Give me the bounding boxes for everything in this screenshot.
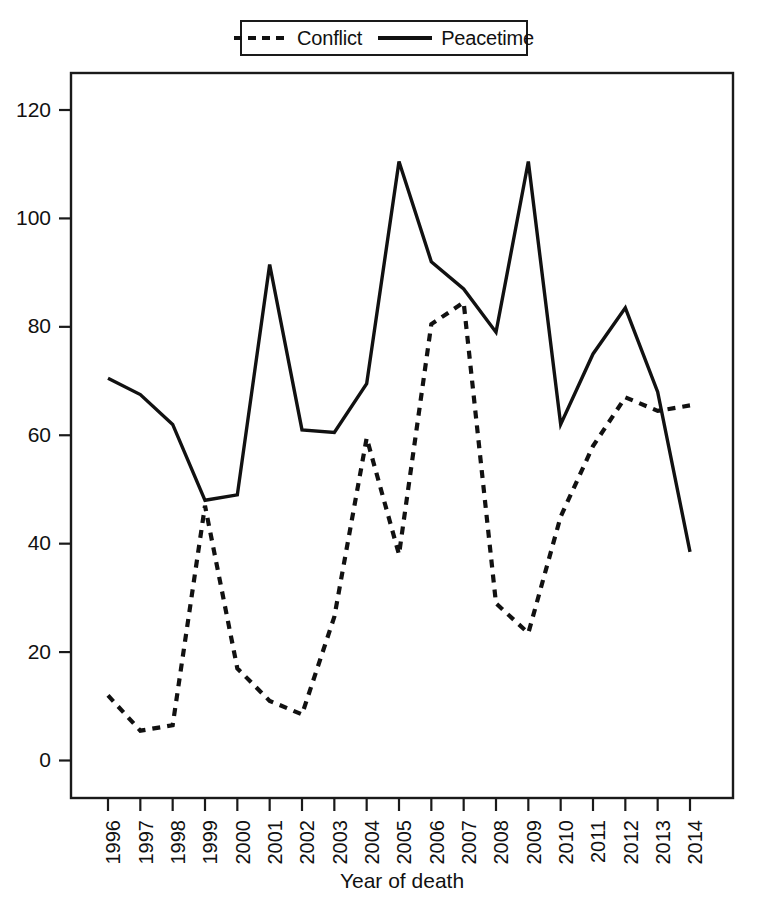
- x-tick-label: 2003: [329, 820, 351, 865]
- x-tick-label: 2012: [620, 820, 642, 865]
- series-lines: [108, 162, 690, 731]
- series-line-conflict: [108, 302, 690, 730]
- x-tick-label: 1996: [102, 820, 124, 865]
- x-tick-label: 2005: [393, 820, 415, 865]
- y-tick-label: 60: [28, 423, 51, 446]
- y-tick-label: 100: [16, 206, 51, 229]
- x-axis: 1996199719981999200020012002200320042005…: [102, 798, 706, 865]
- x-tick-label: 1999: [199, 820, 221, 865]
- x-tick-label: 2002: [296, 820, 318, 865]
- y-tick-label: 80: [28, 314, 51, 337]
- x-tick-label: 2011: [587, 820, 609, 863]
- figure-container: Conflict Peacetime 020406080100120 19961…: [0, 0, 766, 921]
- x-tick-label: 2004: [361, 820, 383, 865]
- x-tick-label: 2007: [458, 820, 480, 865]
- y-tick-label: 20: [28, 640, 51, 663]
- x-axis-title: Year of death: [340, 869, 464, 892]
- y-tick-label: 40: [28, 531, 51, 554]
- x-tick-label: 2013: [652, 820, 674, 865]
- x-tick-label: 1998: [167, 820, 189, 865]
- x-tick-label: 2008: [490, 820, 512, 865]
- x-tick-label: 1997: [135, 820, 157, 865]
- y-tick-label: 120: [16, 98, 51, 121]
- y-tick-label: 0: [39, 748, 51, 771]
- x-tick-label: 2000: [232, 820, 254, 865]
- x-tick-label: 2006: [426, 820, 448, 865]
- x-tick-label: 2010: [555, 820, 577, 865]
- series-line-peacetime: [108, 162, 690, 552]
- line-chart-plot: 020406080100120 199619971998199920002001…: [0, 0, 766, 921]
- x-tick-label: 2014: [684, 820, 706, 865]
- x-tick-label: 2001: [264, 820, 286, 865]
- x-tick-label: 2009: [523, 820, 545, 865]
- plot-frame: [71, 73, 733, 798]
- y-axis: 020406080100120: [16, 98, 71, 772]
